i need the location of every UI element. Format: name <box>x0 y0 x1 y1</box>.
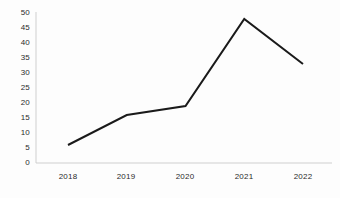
y-tick-label-20: 20 <box>8 99 30 107</box>
y-tick-label-15: 15 <box>8 114 30 122</box>
data-series-line <box>68 19 303 145</box>
y-tick-label-45: 45 <box>8 24 30 32</box>
y-tick-label-30: 30 <box>8 69 30 77</box>
y-tick-label-5: 5 <box>8 144 30 152</box>
x-tick-label-2018: 2018 <box>48 173 88 181</box>
chart-plot-area <box>0 0 340 198</box>
x-tick-label-2021: 2021 <box>224 173 264 181</box>
y-tick-label-40: 40 <box>8 39 30 47</box>
x-tick-label-2020: 2020 <box>165 173 205 181</box>
line-chart: 0 5 10 15 20 25 30 35 40 45 50 2018 2019… <box>0 0 340 198</box>
y-tick-label-35: 35 <box>8 54 30 62</box>
x-tick-label-2022: 2022 <box>283 173 323 181</box>
x-tick-label-2019: 2019 <box>106 173 146 181</box>
y-tick-label-25: 25 <box>8 84 30 92</box>
y-tick-label-10: 10 <box>8 129 30 137</box>
y-tick-label-50: 50 <box>8 9 30 17</box>
y-tick-label-0: 0 <box>8 159 30 167</box>
